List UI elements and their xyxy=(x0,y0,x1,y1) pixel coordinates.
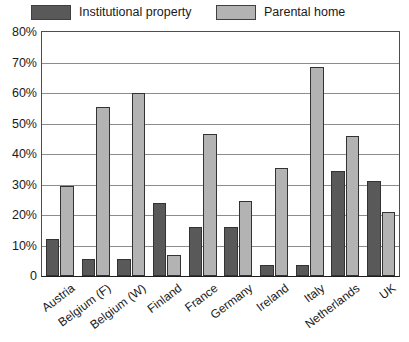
chart-legend: Institutional property Parental home xyxy=(0,0,409,26)
x-axis: AustriaBelgium (F)Belgium (W)FinlandFran… xyxy=(0,277,409,342)
y-tick-label: 50% xyxy=(12,117,37,131)
bar xyxy=(346,136,360,276)
bar-group xyxy=(363,32,399,276)
y-tick-label: 80% xyxy=(12,25,37,39)
bar xyxy=(296,265,310,276)
bar xyxy=(275,168,289,276)
legend-label-institutional: Institutional property xyxy=(79,5,192,20)
bar-group xyxy=(185,32,221,276)
y-tick-label: 20% xyxy=(12,208,37,222)
bar xyxy=(224,227,238,276)
bar xyxy=(367,181,381,276)
legend-entry-parental: Parental home xyxy=(216,3,345,21)
bar xyxy=(331,171,345,276)
bar xyxy=(60,186,74,276)
bar-group xyxy=(149,32,185,276)
bar xyxy=(153,203,167,276)
bar xyxy=(46,239,60,276)
bar-group xyxy=(328,32,364,276)
bar xyxy=(260,265,274,276)
legend-entry-institutional: Institutional property xyxy=(31,3,192,21)
bar-group xyxy=(221,32,257,276)
y-tick-label: 70% xyxy=(12,56,37,70)
bar-group xyxy=(292,32,328,276)
y-tick-label: 40% xyxy=(12,147,37,161)
bar xyxy=(132,93,146,276)
bar xyxy=(310,67,324,276)
legend-swatch-institutional xyxy=(31,5,71,20)
bar xyxy=(96,107,110,276)
y-tick-label: 30% xyxy=(12,178,37,192)
bar xyxy=(239,201,253,276)
legend-swatch-parental xyxy=(216,5,256,20)
bar xyxy=(82,259,96,276)
legend-label-parental: Parental home xyxy=(264,5,345,20)
x-tick-label: UK xyxy=(377,281,399,302)
bar-group xyxy=(113,32,149,276)
x-tick-label: Italy xyxy=(301,281,327,305)
bar xyxy=(203,134,217,276)
bar xyxy=(167,255,181,276)
bar xyxy=(189,227,203,276)
x-tick-label: Finland xyxy=(145,281,185,316)
y-tick-label: 10% xyxy=(12,239,37,253)
y-axis: 80%70%60%50%40%30%20%10%0 xyxy=(0,31,37,277)
y-tick-label: 60% xyxy=(12,86,37,100)
bar xyxy=(117,259,131,276)
bars-layer xyxy=(42,32,399,276)
x-tick-label: Ireland xyxy=(254,281,292,314)
bar xyxy=(382,212,396,276)
bar-group xyxy=(256,32,292,276)
bar-group xyxy=(42,32,78,276)
bar-chart: Institutional property Parental home 80%… xyxy=(0,0,409,342)
bar-group xyxy=(78,32,114,276)
